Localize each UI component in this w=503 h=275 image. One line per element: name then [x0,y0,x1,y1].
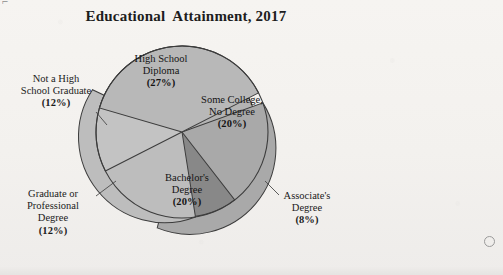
figure-canvas: ⌐ Educational Attainment, 2017 [0,0,503,275]
label-percent: (20%) [150,196,224,208]
label-line-1: Graduate or [12,188,94,200]
label-percent: (27%) [124,77,198,89]
slice-label-some-college-no-degree: Some College, No Degree (20%) [192,94,272,131]
label-line-2: Diploma [124,65,198,77]
slice-label-graduate-professional-degree: Graduate or Professional Degree (12%) [12,188,94,237]
label-line-2: Degree [268,202,346,214]
slice-label-associates-degree: Associate's Degree (8%) [268,190,346,227]
label-line-3: Degree [12,212,94,224]
label-line-2: Professional [12,200,94,212]
label-line-1: High School [124,53,198,65]
label-line-2: Degree [150,184,224,196]
label-percent: (20%) [192,118,272,130]
slice-label-high-school-diploma: High School Diploma (27%) [124,53,198,90]
label-line-1: Not a High [6,73,106,85]
label-line-1: Associate's [268,190,346,202]
label-line-1: Bachelor's [150,172,224,184]
label-percent: (8%) [268,214,346,226]
label-line-1: Some College, [192,94,272,106]
scan-artifact-circle-icon [484,236,495,247]
slice-label-bachelors-degree: Bachelor's Degree (20%) [150,172,224,209]
label-percent: (12%) [12,225,94,237]
page-bottom-shadow [0,266,503,275]
label-line-2: School Graduate [6,85,106,97]
label-line-2: No Degree [192,106,272,118]
slice-label-not-a-high-school-graduate: Not a High School Graduate (12%) [6,73,106,110]
label-percent: (12%) [6,97,106,109]
